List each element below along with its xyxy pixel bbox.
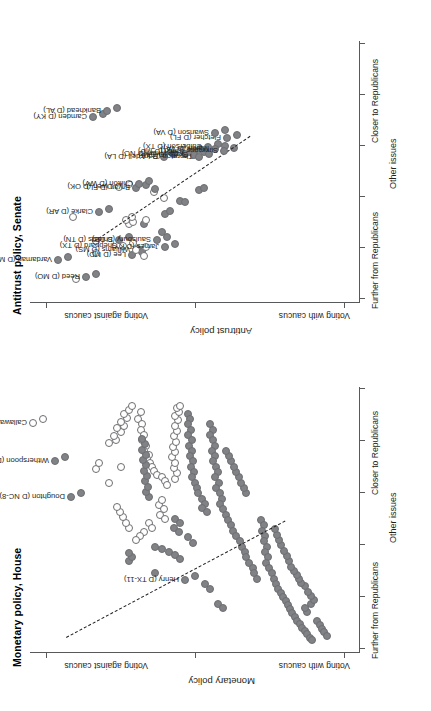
y-axis-title-senate: Antitrust policy [190, 326, 252, 337]
x-axis-title-senate: Other issues [388, 138, 398, 189]
plot-area-house: Callaway (D TX-12)Witherspoon (D MS-5)Do… [30, 387, 360, 653]
y-cat-against-house: Voting against caucus [64, 661, 148, 671]
x-axis-title-house: Other issues [388, 492, 398, 543]
marker-swatch-icon [223, 134, 231, 142]
data-point [191, 572, 199, 580]
data-point [308, 636, 316, 644]
panel-antitrust-policy-senate: Antitrust policy, Senate Vardaman (D MS)… [0, 0, 431, 355]
x-label-further-senate: Further from Republicans [370, 212, 380, 309]
data-point [138, 435, 146, 443]
x-tick [360, 94, 365, 95]
data-point [176, 555, 184, 563]
data-point [200, 184, 208, 192]
data-point [233, 131, 241, 139]
annotation-label-text: Swanson (D VA) [154, 128, 210, 137]
x-label-closer-house: Closer to Republicans [370, 411, 380, 495]
data-point [148, 524, 156, 532]
marker-swatch-icon [181, 576, 189, 584]
y-cat-against-senate: Voting against caucus [64, 311, 148, 321]
annotation-label-text: Callaway (D TX-12) [0, 418, 27, 427]
point-annotation: Callaway (D TX-12) [0, 418, 37, 427]
point-annotation: Doughton (D NC-8) [0, 492, 75, 501]
data-point [219, 604, 227, 612]
point-annotation: Henry (D TX-11) [124, 575, 189, 584]
annotation-label-text: Vardaman (D MS) [0, 255, 52, 264]
point-annotation: Clarke (D AR) [46, 207, 103, 216]
marker-swatch-icon [95, 208, 103, 216]
data-point [151, 185, 159, 193]
plot-area-senate: Vardaman (D MS)Reed (D MO)Clarke (D AR)S… [30, 41, 360, 303]
data-point [323, 632, 331, 640]
y-axis-title-house: Monetary policy [188, 676, 255, 687]
x-tick [360, 196, 365, 197]
figure-root: Monetary policy, House Callaway (D TX-12… [0, 0, 431, 711]
marker-swatch-icon [220, 147, 228, 155]
panel-title-house: Monetary policy, House [11, 548, 23, 667]
data-point [163, 481, 171, 489]
data-point [105, 479, 113, 487]
data-point [145, 177, 153, 185]
annotation-label-text: Chilton (D WV) [82, 179, 133, 188]
annotation-label-text: Reed (D MO) [35, 272, 80, 281]
data-point [253, 575, 261, 583]
y-tick [344, 303, 345, 308]
y-tick [46, 303, 47, 308]
x-tick [360, 145, 365, 146]
point-annotation: Swanson (D VA) [154, 128, 220, 137]
y-tick [46, 653, 47, 658]
marker-swatch-icon [51, 458, 59, 466]
data-point [161, 515, 169, 523]
data-point [105, 205, 113, 213]
x-label-further-house: Further from Republicans [370, 562, 380, 659]
annotation-label-text: Bankhead (D AL) [44, 106, 102, 115]
point-annotation: Chilton (D WV) [82, 179, 143, 188]
x-tick [360, 388, 365, 389]
data-point [140, 252, 148, 260]
point-annotation: Vardaman (D MS) [0, 255, 62, 264]
marker-swatch-icon [161, 243, 169, 251]
marker-swatch-icon [29, 419, 37, 427]
data-point [181, 198, 189, 206]
x-axis-line-senate [359, 41, 360, 303]
y-cat-with-house: Voting with caucus [279, 661, 350, 671]
marker-swatch-icon [135, 180, 143, 188]
x-tick [360, 596, 365, 597]
data-point [64, 253, 72, 261]
y-cat-with-senate: Voting with caucus [279, 311, 350, 321]
data-point [189, 539, 197, 547]
data-point [163, 234, 171, 242]
annotation-label-text: Simmons (D NC) [161, 146, 218, 155]
marker-swatch-icon [103, 107, 111, 115]
annotation-label-text: Clarke (D AR) [46, 207, 93, 216]
annotation-label-text: James (D KY) [112, 242, 159, 251]
data-point [77, 489, 85, 497]
x-label-closer-senate: Closer to Republicans [370, 59, 380, 143]
data-point [128, 402, 136, 410]
annotation-label-text: Doughton (D NC-8) [0, 492, 65, 501]
y-tick [195, 303, 196, 308]
x-tick [360, 648, 365, 649]
data-point [61, 454, 69, 462]
data-point [175, 528, 183, 536]
data-point [132, 536, 140, 544]
x-axis-line-house [359, 387, 360, 653]
x-tick [360, 440, 365, 441]
data-point [117, 463, 125, 471]
point-annotation: Simmons (D NC) [161, 146, 228, 155]
data-point [158, 496, 166, 504]
x-tick [360, 247, 365, 248]
x-tick [360, 43, 365, 44]
point-annotation: Witherspoon (D MS-5) [0, 457, 59, 466]
point-annotation: Bankhead (D AL) [44, 106, 112, 115]
data-point [39, 415, 47, 423]
point-annotation: Reed (D MO) [35, 272, 90, 281]
y-tick [344, 653, 345, 658]
x-tick [360, 544, 365, 545]
marker-swatch-icon [82, 273, 90, 281]
marker-swatch-icon [211, 129, 219, 137]
data-point [203, 508, 211, 516]
data-point [206, 585, 214, 593]
annotation-label-text: Henry (D TX-11) [124, 575, 179, 584]
marker-swatch-icon [54, 256, 62, 264]
x-tick [360, 492, 365, 493]
